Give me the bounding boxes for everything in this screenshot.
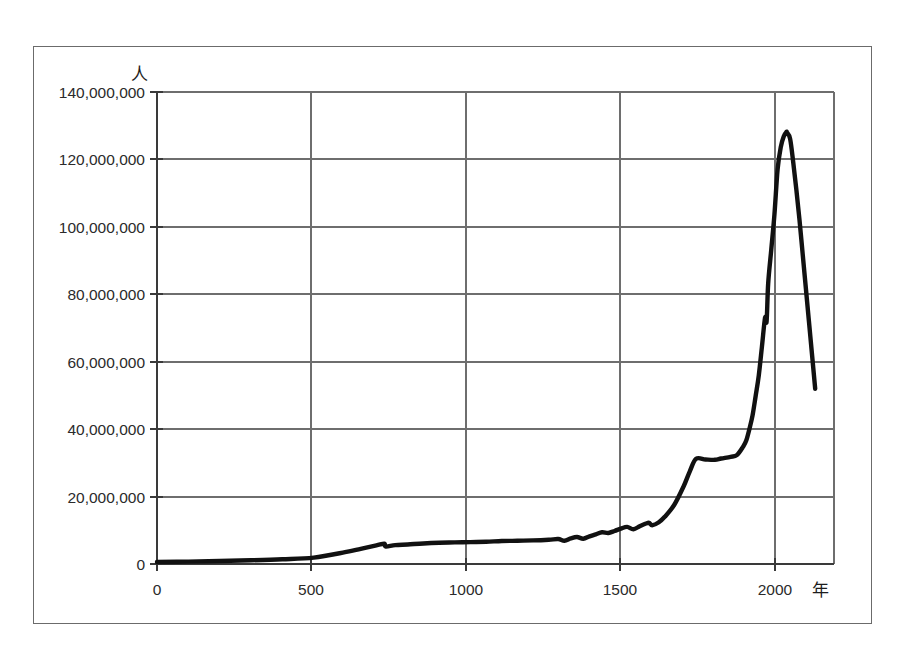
x-tick-label-1500: 1500: [603, 581, 638, 598]
y-axis-tick-labels: 140,000,000 120,000,000 100,000,000 80,0…: [59, 84, 146, 573]
y-tick-label-100m: 100,000,000: [59, 219, 146, 236]
y-tick-label-120m: 120,000,000: [59, 151, 146, 168]
y-tick-label-40m: 40,000,000: [67, 421, 145, 438]
x-tick-label-500: 500: [298, 581, 324, 598]
y-tick-label-140m: 140,000,000: [59, 84, 146, 101]
x-axis-unit-label: 年: [812, 581, 829, 600]
axis-lines: [157, 92, 834, 566]
x-tick-label-1000: 1000: [449, 581, 484, 598]
grid-lines: [157, 92, 834, 564]
y-axis-unit-label: 人: [131, 65, 148, 84]
y-tick-label-0: 0: [136, 556, 145, 573]
population-chart-figure: 140,000,000 120,000,000 100,000,000 80,0…: [0, 0, 904, 650]
y-tick-label-80m: 80,000,000: [67, 286, 145, 303]
line-chart: 140,000,000 120,000,000 100,000,000 80,0…: [0, 0, 904, 650]
y-tick-label-60m: 60,000,000: [67, 354, 145, 371]
x-tick-label-0: 0: [153, 581, 162, 598]
x-tick-label-2000: 2000: [758, 581, 793, 598]
y-tick-label-20m: 20,000,000: [67, 489, 145, 506]
x-axis-tick-labels: 0 500 1000 1500 2000: [153, 581, 793, 598]
